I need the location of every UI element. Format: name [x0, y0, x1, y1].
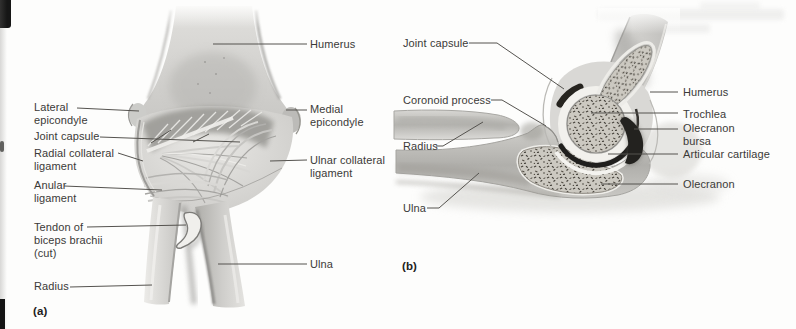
label-ulna-a: Ulna — [310, 258, 333, 271]
textbook-figure-page: Humerus Lateral epicondyle Medial epicon… — [0, 0, 796, 329]
radius-drawing-a — [144, 197, 182, 305]
label-trochlea: Trochlea — [683, 108, 726, 121]
label-tendon-of-biceps-brachii: Tendon of biceps brachii (cut) — [34, 221, 103, 260]
label-radius-a: Radius — [34, 280, 69, 293]
biceps-tendon-drawing — [177, 212, 202, 248]
label-olecranon: Olecranon — [683, 178, 735, 191]
label-anular-ligament: Anular ligament — [34, 179, 76, 205]
label-joint-capsule-a: Joint capsule — [34, 130, 100, 143]
label-ulnar-collateral-ligament: Ulnar collateral ligament — [310, 154, 385, 180]
elbow-joint-illustrations — [0, 0, 796, 329]
label-humerus-b: Humerus — [683, 86, 728, 99]
label-ulna-b: Ulna — [403, 202, 426, 215]
label-articular-cartilage: Articular cartilage — [683, 148, 770, 161]
label-lateral-epicondyle: Lateral epicondyle — [34, 101, 88, 127]
label-medial-epicondyle: Medial epicondyle — [310, 103, 364, 129]
label-radial-collateral-ligament: Radial collateral ligament — [34, 147, 114, 173]
panel-a-caption: (a) — [33, 305, 47, 318]
label-coronoid-process: Coronoid process — [403, 94, 491, 107]
ulna-drawing-a — [195, 201, 245, 308]
label-olecranon-bursa: Olecranon bursa — [683, 122, 735, 148]
label-radius-b: Radius — [403, 140, 438, 153]
panel-a-illustration — [128, 4, 301, 308]
label-humerus-a: Humerus — [310, 38, 355, 51]
joint-capsule-drawing — [134, 106, 293, 213]
leader-radius-a — [70, 285, 152, 287]
panel-b-caption: (b) — [402, 260, 417, 273]
label-joint-capsule-b: Joint capsule — [403, 37, 469, 50]
